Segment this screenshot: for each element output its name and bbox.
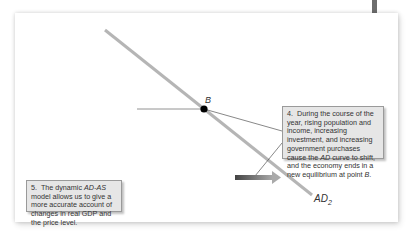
callout-4-leader-to-arrow: [255, 143, 282, 176]
point-b-label: B: [205, 95, 211, 105]
equilibrium-point-b: [200, 105, 207, 112]
ad2-label: AD2: [314, 193, 332, 206]
shift-arrow-icon: [235, 171, 281, 184]
callout-5: 5. The dynamic AD-AS model allows us to …: [26, 180, 122, 212]
ad2-curve: [105, 30, 312, 195]
callout-4: 4. During the course of the year, rising…: [282, 106, 384, 159]
